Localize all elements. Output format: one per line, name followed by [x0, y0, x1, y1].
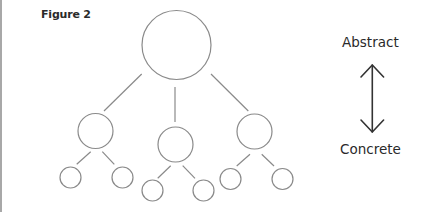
tree-edge: [77, 152, 91, 165]
tree-edge: [102, 152, 114, 165]
figure-canvas: Figure 2: [0, 0, 447, 212]
concrete-label: Concrete: [340, 141, 401, 157]
tree-node-leaf: [112, 167, 133, 188]
tree-node-mid-center: [158, 127, 193, 162]
tree-node-leaf: [60, 167, 81, 188]
tree-node-leaf: [142, 180, 163, 201]
hierarchy-tree-diagram: [0, 0, 447, 212]
tree-edge: [237, 154, 250, 166]
tree-node-leaf: [193, 180, 214, 201]
tree-node-mid-right: [237, 114, 272, 149]
abstract-label: Abstract: [342, 34, 399, 50]
tree-node-leaf: [220, 169, 241, 190]
tree-edge: [158, 166, 171, 179]
tree-node-mid-left: [78, 114, 113, 149]
tree-edge: [262, 154, 274, 166]
tree-edge: [104, 74, 142, 111]
tree-node-root: [142, 11, 211, 80]
tree-edge: [211, 74, 248, 111]
double-arrow-icon: [361, 65, 384, 132]
tree-node-leaf: [272, 169, 293, 190]
tree-edge: [183, 166, 195, 179]
